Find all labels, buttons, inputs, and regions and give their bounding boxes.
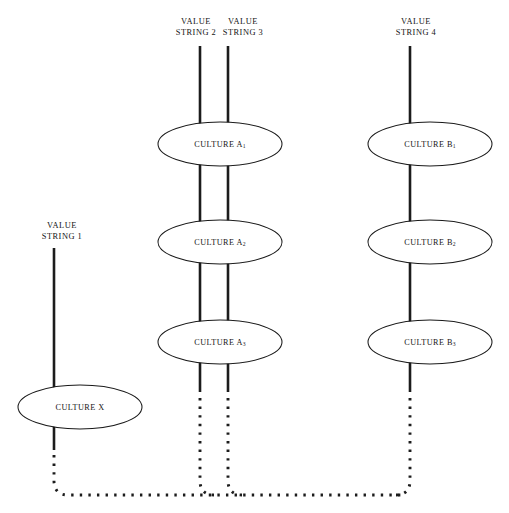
dotted-connector-dot-path-x — [54, 455, 404, 495]
dotted-connector-dot-path-vs2 — [200, 398, 214, 495]
diagram-canvas: CULTURE A1CULTURE A2CULTURE A3CULTURE B1… — [0, 0, 509, 513]
dotted-connector-dot-path-vs3 — [228, 398, 242, 495]
culture-a1[interactable]: CULTURE A1 — [158, 122, 282, 166]
value-string-label-vs3-line2: STRING 3 — [223, 28, 264, 37]
culture-a2-label: CULTURE A2 — [194, 238, 246, 248]
culture-a3[interactable]: CULTURE A3 — [158, 320, 282, 364]
value-string-label-vs4-line2: STRING 4 — [396, 28, 437, 37]
culture-nodes: CULTURE A1CULTURE A2CULTURE A3CULTURE B1… — [18, 122, 492, 429]
value-string-label-vs2-line1: VALUE — [181, 17, 211, 26]
culture-b3[interactable]: CULTURE B3 — [368, 320, 492, 364]
value-string-label-vs1: VALUESTRING 1 — [42, 221, 83, 241]
value-string-label-vs2: VALUESTRING 2 — [176, 17, 217, 37]
value-string-label-vs4-line1: VALUE — [401, 17, 431, 26]
culture-b1[interactable]: CULTURE B1 — [368, 122, 492, 166]
culture-a1-label: CULTURE A1 — [194, 140, 246, 150]
culture-a2[interactable]: CULTURE A2 — [158, 220, 282, 264]
value-string-label-vs1-line1: VALUE — [47, 221, 77, 230]
culture-b2-label: CULTURE B2 — [404, 238, 456, 248]
value-string-label-vs3-line1: VALUE — [228, 17, 258, 26]
value-string-label-vs4: VALUESTRING 4 — [396, 17, 437, 37]
value-string-label-vs2-line2: STRING 2 — [176, 28, 217, 37]
culture-b1-label: CULTURE B1 — [404, 140, 456, 150]
diagram-svg: CULTURE A1CULTURE A2CULTURE A3CULTURE B1… — [0, 0, 509, 513]
culture-b3-label: CULTURE B3 — [404, 338, 456, 348]
culture-a3-label: CULTURE A3 — [194, 338, 246, 348]
value-string-label-vs3: VALUESTRING 3 — [223, 17, 264, 37]
culture-x-label: CULTURE X — [55, 403, 104, 412]
value-string-label-vs1-line2: STRING 1 — [42, 232, 83, 241]
culture-b2[interactable]: CULTURE B2 — [368, 220, 492, 264]
dotted-connector-dot-path-vs4 — [396, 398, 410, 495]
culture-x[interactable]: CULTURE X — [18, 385, 142, 429]
